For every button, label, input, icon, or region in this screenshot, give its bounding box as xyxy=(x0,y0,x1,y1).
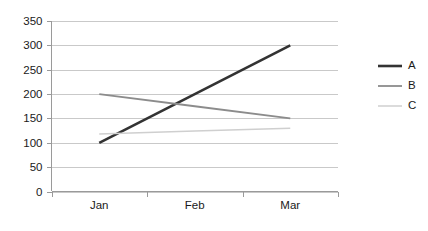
y-tick-label: 100 xyxy=(23,137,42,149)
y-tick-label: 150 xyxy=(23,112,42,124)
legend-label-c: C xyxy=(408,99,416,111)
y-tick-label: 350 xyxy=(23,15,42,27)
y-tick-label: 200 xyxy=(23,88,42,100)
series-line-b xyxy=(99,94,290,118)
legend-label-a: A xyxy=(408,59,416,71)
y-tick-label: 50 xyxy=(30,161,43,173)
y-axis-ticks xyxy=(47,22,52,193)
legend: ABC xyxy=(378,59,416,111)
chart-canvas: 050100150200250300350 JanFebMar ABC xyxy=(0,0,428,231)
x-axis-tick-labels: JanFebMar xyxy=(90,199,300,211)
y-tick-label: 0 xyxy=(36,186,42,198)
y-tick-label: 250 xyxy=(23,64,42,76)
x-tick-label: Mar xyxy=(280,199,300,211)
x-tick-label: Feb xyxy=(185,199,205,211)
y-tick-label: 300 xyxy=(23,39,42,51)
legend-label-b: B xyxy=(408,79,416,91)
line-chart: 050100150200250300350 JanFebMar ABC xyxy=(0,0,428,231)
y-axis-tick-labels: 050100150200250300350 xyxy=(23,15,42,198)
x-tick-label: Jan xyxy=(90,199,109,211)
